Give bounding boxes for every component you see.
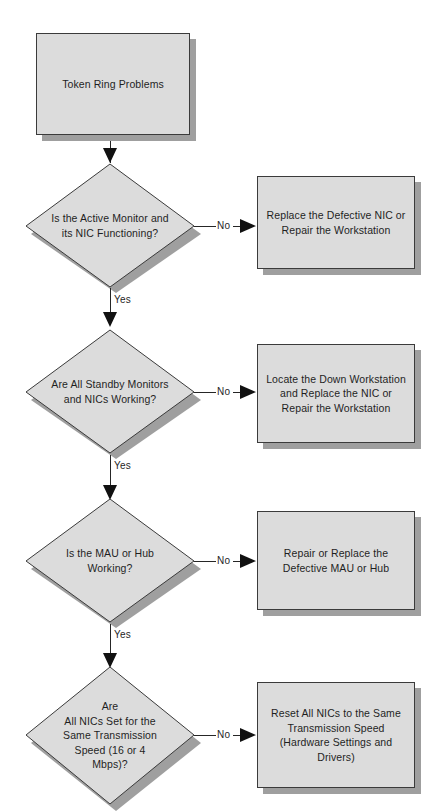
node-action-2[interactable]: Locate the Down Workstation and Replace …	[257, 344, 423, 450]
flowchart-canvas: Token Ring Problems Is the Active Monito…	[0, 0, 441, 812]
edge-label-d3-yes: Yes	[114, 629, 131, 641]
node-action-1-box[interactable]: Replace the Defective NIC or Repair the …	[257, 176, 415, 269]
edge-label-d4-no: No	[217, 729, 230, 741]
edge-label-d3-no: No	[217, 555, 230, 567]
node-action-1-label: Replace the Defective NIC or Repair the …	[261, 208, 412, 237]
decision-2-shape	[24, 328, 202, 460]
connector-d1-no	[194, 226, 216, 227]
decision-4-shape	[24, 665, 202, 812]
decision-1-shape	[24, 162, 202, 294]
node-decision-1[interactable]: Is the Active Monitor and its NIC Functi…	[24, 162, 202, 294]
decision-3-shape	[24, 497, 202, 629]
edge-label-d2-yes: Yes	[114, 460, 131, 472]
arrowhead-d2-no	[240, 385, 256, 399]
node-decision-3[interactable]: Is the MAU or Hub Working?	[24, 497, 202, 629]
node-start-box[interactable]: Token Ring Problems	[36, 33, 190, 135]
node-action-2-label: Locate the Down Workstation and Replace …	[260, 372, 412, 416]
connector-d3-no	[194, 561, 216, 562]
edge-label-d2-no: No	[217, 386, 230, 398]
node-start[interactable]: Token Ring Problems	[36, 33, 196, 141]
node-action-3-box[interactable]: Repair or Replace the Defective MAU or H…	[257, 511, 415, 610]
arrowhead-d1-no	[240, 219, 256, 233]
node-action-4-box[interactable]: Reset All NICs to the Same Transmission …	[257, 682, 415, 788]
connector-d2-no	[194, 392, 216, 393]
node-start-label: Token Ring Problems	[56, 77, 170, 92]
node-decision-2[interactable]: Are All Standby Monitors and NICs Workin…	[24, 328, 202, 460]
node-action-3-label: Repair or Replace the Defective MAU or H…	[277, 546, 395, 575]
arrowhead-d3-no	[240, 554, 256, 568]
node-action-4[interactable]: Reset All NICs to the Same Transmission …	[257, 682, 423, 795]
arrowhead-d1-yes	[103, 312, 117, 327]
node-action-1[interactable]: Replace the Defective NIC or Repair the …	[257, 176, 423, 276]
arrowhead-start-to-d1	[103, 148, 117, 163]
node-decision-4[interactable]: Are All NICs Set for the Same Transmissi…	[24, 665, 202, 812]
edge-label-d1-no: No	[217, 220, 230, 232]
arrowhead-d4-no	[240, 728, 256, 742]
node-action-4-label: Reset All NICs to the Same Transmission …	[265, 706, 407, 764]
node-action-3[interactable]: Repair or Replace the Defective MAU or H…	[257, 511, 423, 617]
node-action-2-box[interactable]: Locate the Down Workstation and Replace …	[257, 344, 415, 443]
edge-label-d1-yes: Yes	[114, 294, 131, 306]
connector-d4-no	[194, 735, 216, 736]
